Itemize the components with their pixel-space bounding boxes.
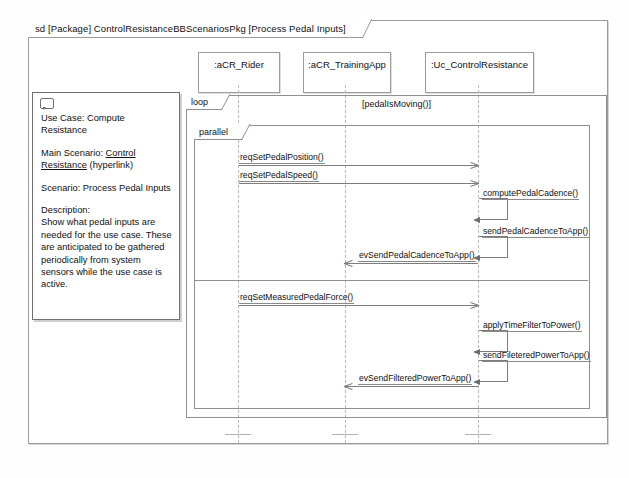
note-mainscenario-prefix: Main Scenario: bbox=[41, 148, 106, 158]
arrowhead-left-icon bbox=[473, 349, 480, 355]
message-label: evSendFilteredPowerToApp() bbox=[358, 373, 472, 385]
arrowhead-left-icon bbox=[344, 382, 353, 391]
lifeline-head-controlresistance[interactable]: :Uc_ControlResistance bbox=[425, 52, 534, 93]
self-message-label-sendfileteredpowertoapp: sendFileteredPowerToApp() bbox=[482, 350, 591, 362]
arrowhead-right-icon bbox=[470, 161, 479, 170]
arrowhead-right-icon bbox=[470, 179, 479, 188]
fragment-parallel-divider bbox=[195, 280, 588, 281]
note-line-usecase: Use Case: Compute Resistance bbox=[41, 112, 172, 137]
self-message-label-sendpedalcadencetoapp: sendPedalCadenceToApp() bbox=[482, 226, 589, 238]
fragment-loop-guard: [pedalIsMoving()] bbox=[362, 99, 431, 109]
message-shaft bbox=[239, 165, 478, 166]
lifeline-foot-rider bbox=[225, 434, 251, 435]
message-label: reqSetMeasuredPedalForce() bbox=[239, 292, 354, 304]
lifeline-head-rider[interactable]: :aCR_Rider bbox=[198, 52, 280, 93]
arrowhead-left-icon bbox=[473, 217, 480, 223]
self-message-label-applytimefiltertopower: applyTimeFilterToPower() bbox=[482, 320, 582, 332]
sd-frame-label: sd [Package] ControlResistanceBBScenario… bbox=[28, 20, 363, 38]
note-line-description-body: Show what pedal inputs are needed for th… bbox=[41, 216, 172, 290]
lifeline-head-trainingapp[interactable]: :aCR_TrainingApp bbox=[303, 52, 391, 93]
lifeline-foot-trainingapp bbox=[332, 434, 358, 435]
note-line-scenario: Scenario: Process Pedal Inputs bbox=[41, 182, 172, 194]
message-shaft bbox=[239, 183, 478, 184]
lifeline-foot-controlresistance bbox=[465, 434, 491, 435]
fragment-parallel-operator: parallel bbox=[194, 125, 242, 140]
self-message-label-computepedalcadence: computePedalCadence() bbox=[482, 188, 579, 200]
arrowhead-left-icon bbox=[473, 379, 480, 385]
message-shaft bbox=[239, 305, 478, 306]
comment-icon bbox=[40, 98, 54, 109]
self-message-sendpedalcadencetoapp[interactable] bbox=[479, 236, 508, 258]
message-shaft bbox=[345, 386, 478, 387]
note-line-mainscenario: Main Scenario: Control Resistance (hyper… bbox=[41, 147, 172, 172]
self-message-applytimefiltertopower[interactable] bbox=[479, 330, 508, 352]
sequence-diagram-canvas: sd [Package] ControlResistanceBBScenario… bbox=[0, 0, 629, 478]
lifeline-label-rider: :aCR_Rider bbox=[214, 59, 264, 70]
fragment-parallel bbox=[194, 125, 590, 409]
fragment-loop-operator: loop bbox=[186, 95, 222, 110]
self-message-computepedalcadence[interactable] bbox=[479, 198, 508, 220]
message-label: evSendPedalCadenceToApp() bbox=[358, 250, 476, 262]
note-line-description-head: Description: bbox=[41, 204, 172, 216]
arrowhead-right-icon bbox=[470, 301, 479, 310]
message-label: reqSetPedalPosition() bbox=[239, 152, 325, 164]
self-message-sendfileteredpowertoapp[interactable] bbox=[479, 360, 508, 382]
message-label: reqSetPedalSpeed() bbox=[239, 170, 319, 182]
arrowhead-left-icon bbox=[344, 259, 353, 268]
note-mainscenario-suffix: (hyperlink) bbox=[87, 160, 133, 170]
note-box[interactable]: Use Case: Compute Resistance Main Scenar… bbox=[32, 92, 180, 320]
message-shaft bbox=[345, 263, 478, 264]
lifeline-label-controlresistance: :Uc_ControlResistance bbox=[431, 59, 528, 70]
lifeline-label-trainingapp: :aCR_TrainingApp bbox=[308, 59, 386, 70]
